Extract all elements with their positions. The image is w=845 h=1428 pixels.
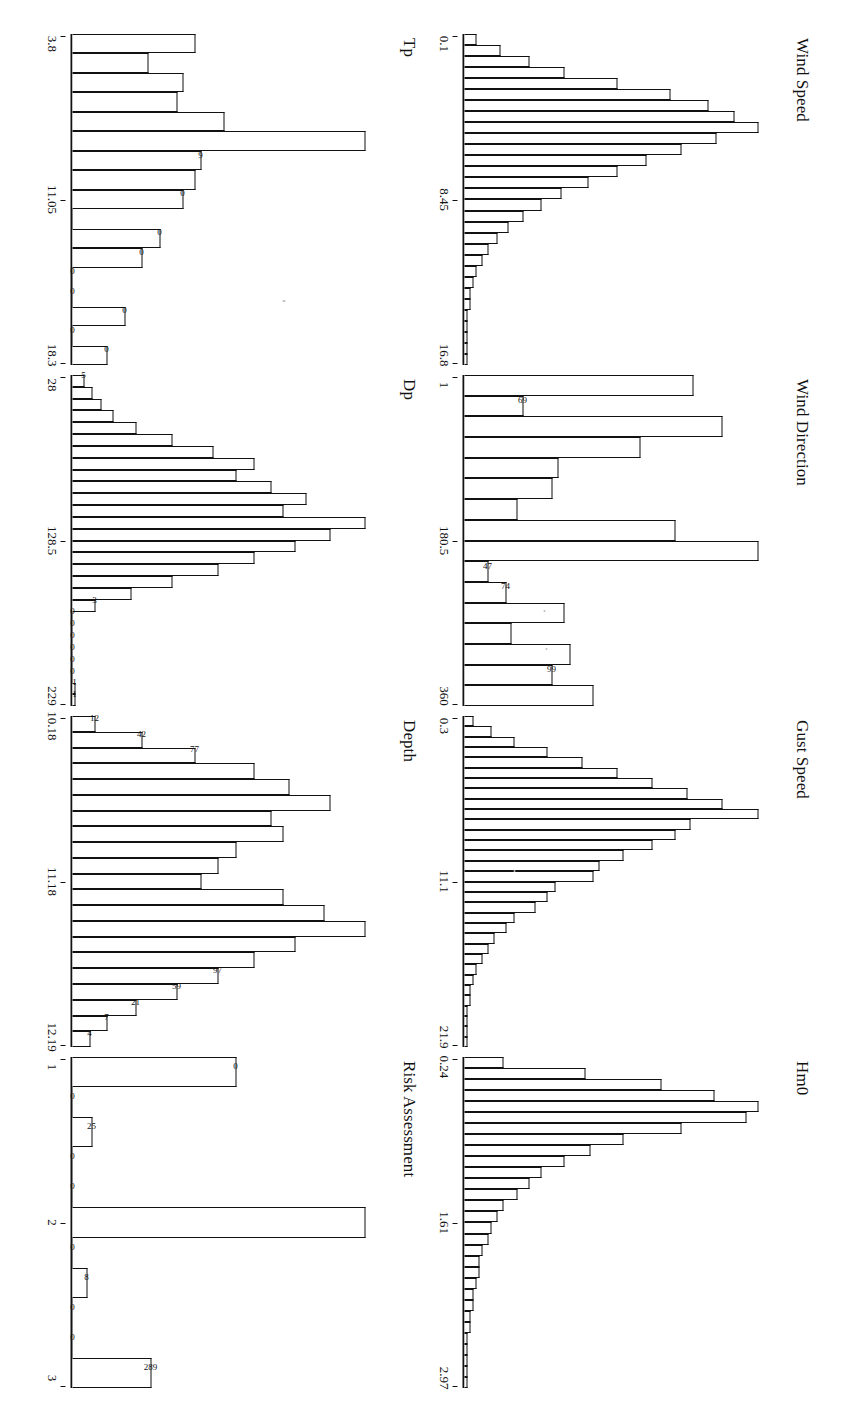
axis-tick	[453, 1223, 458, 1224]
axis-tick	[60, 882, 65, 883]
bar-slot	[72, 209, 391, 228]
axis-tick-label: 18.3	[44, 344, 58, 367]
bar-slot	[465, 1322, 784, 1333]
histogram-bar: 47	[465, 561, 488, 582]
bar-slot	[465, 933, 784, 943]
bar-slot	[72, 763, 391, 779]
bar-slot	[465, 768, 784, 778]
histogram-bar	[72, 842, 236, 858]
histogram-bar	[465, 541, 758, 562]
bar-slot	[72, 53, 391, 72]
bar-slot	[72, 937, 391, 953]
bar-slot	[72, 842, 391, 858]
histogram-bar	[72, 564, 219, 576]
bar-slot	[465, 56, 784, 67]
histogram-bar	[465, 1300, 474, 1311]
bar-value-label: 0	[70, 267, 75, 277]
histogram-bar	[72, 410, 113, 422]
histogram-bar	[465, 177, 588, 188]
histogram-bar	[465, 623, 512, 644]
histogram-bar: 0	[72, 229, 160, 248]
bar-slot	[465, 1278, 784, 1289]
axis-tick	[453, 704, 458, 705]
bar-slot	[465, 1112, 784, 1123]
histogram-bar	[465, 1245, 483, 1256]
histogram-bar	[72, 470, 236, 482]
axis-tick	[60, 704, 65, 705]
histogram-bar	[72, 952, 254, 968]
bar-slot	[72, 576, 391, 588]
histogram-bar	[465, 67, 565, 78]
histogram-grid: Wind Speed0.18.4516.8Wind Direction69477…	[0, 0, 845, 1428]
histogram-bar	[465, 788, 688, 798]
histogram-bar	[465, 343, 468, 354]
bar-slot	[465, 277, 784, 288]
histogram-bar	[72, 399, 101, 411]
plot-area: 0.241.612.97	[437, 1057, 784, 1388]
histogram-bar	[465, 747, 547, 757]
histogram-bar: 25	[72, 1117, 93, 1147]
bar-slot: 0	[72, 1238, 391, 1268]
axis-tick-label: 21.9	[437, 1026, 451, 1049]
bar-slot	[465, 111, 784, 122]
bar-slot	[465, 233, 784, 244]
histogram-bar	[465, 288, 471, 299]
bar-value-label: 0	[70, 643, 75, 653]
histogram-bar	[465, 1057, 503, 1068]
histogram-bar	[72, 811, 271, 827]
bar-slot	[72, 529, 391, 541]
bar-slot: 0	[72, 268, 391, 287]
axis-tick	[60, 1059, 65, 1060]
axis-tick-label: 0.1	[437, 36, 451, 52]
axis-tick	[60, 363, 65, 364]
bar-slot	[465, 623, 784, 644]
axis-tick-label: 10.18	[44, 711, 58, 740]
bar-slot	[465, 840, 784, 850]
bar-slot	[72, 826, 391, 842]
histogram-bar	[465, 122, 758, 133]
histogram-bar	[72, 552, 254, 564]
histogram-bar	[465, 685, 594, 706]
axis-tick-label: 128.5	[44, 526, 58, 555]
histogram-bar	[465, 768, 617, 778]
bar-slot: 0	[72, 1298, 391, 1328]
histogram-bar	[72, 434, 172, 446]
plot-area: 0.311.121.9	[437, 716, 784, 1047]
histogram-bar: 0	[72, 248, 142, 267]
bar-slot	[465, 809, 784, 819]
bar-slot	[465, 1057, 784, 1068]
axis-tick-label: 11.05	[44, 185, 58, 214]
histogram-bar	[465, 778, 653, 788]
bar-slot	[465, 747, 784, 757]
axis-tick-label: 229	[44, 686, 58, 706]
bar-slot: 77	[72, 748, 391, 764]
histogram-bar	[465, 1278, 477, 1289]
histogram-bar	[465, 871, 594, 881]
plot-area: 0025000800289123	[44, 1057, 391, 1388]
histogram-bar	[72, 458, 254, 470]
bar-value-label: 77	[190, 745, 199, 755]
panel-title: Wind Speed	[787, 34, 811, 365]
histogram-bar	[465, 321, 468, 332]
histogram-bar: 42	[72, 732, 142, 748]
bar-series	[463, 1057, 784, 1388]
histogram-panel: Gust Speed0.311.121.9	[437, 716, 812, 1047]
axis-tick	[60, 718, 65, 719]
histogram-bar	[465, 882, 556, 892]
histogram-bar	[465, 144, 682, 155]
axis-tick	[453, 377, 458, 378]
bar-slot	[72, 410, 391, 422]
bar-slot	[465, 78, 784, 89]
histogram-bar	[465, 913, 515, 923]
bar-slot	[72, 505, 391, 517]
bar-value-label: 0	[70, 1243, 75, 1253]
histogram-panel: Dp530000001128128.5229	[44, 375, 419, 706]
histogram-bar	[72, 763, 254, 779]
histogram-bar	[465, 944, 488, 954]
histogram-bar	[465, 1026, 468, 1036]
axis-tick-label: 0.24	[437, 1056, 451, 1079]
bar-value-label: 0	[180, 189, 185, 199]
bar-slot	[465, 478, 784, 499]
histogram-bar	[465, 1256, 480, 1267]
axis-tick-label: 1	[437, 382, 451, 389]
